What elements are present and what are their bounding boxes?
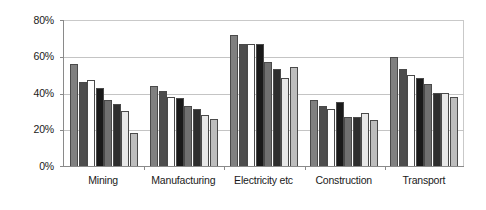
bar (407, 75, 415, 166)
bar (193, 109, 201, 166)
x-axis-category-label: Transport (384, 174, 464, 186)
bar-group (224, 20, 304, 166)
plot-area (63, 20, 464, 167)
bar-group (64, 20, 144, 166)
x-group-separator (305, 166, 306, 170)
bar-chart: 80% 60% 40% 20% 0% Mining Manufacturing … (0, 0, 486, 210)
bar (433, 93, 441, 166)
bar (159, 91, 167, 166)
bar (336, 102, 344, 166)
bar (353, 117, 361, 166)
bar (150, 86, 158, 166)
bar (201, 115, 209, 166)
bar (424, 84, 432, 166)
x-group-separator (224, 166, 225, 170)
bar (104, 100, 112, 166)
bar (264, 62, 272, 166)
bar (230, 35, 238, 166)
x-axis-labels: Mining Manufacturing Electricity etc Con… (63, 174, 464, 186)
bar (256, 44, 264, 166)
y-axis-labels: 80% 60% 40% 20% 0% (0, 0, 58, 210)
y-tick-0 (60, 166, 64, 167)
bar (96, 88, 104, 166)
bar (247, 44, 255, 166)
x-axis-category-label: Electricity etc (223, 174, 303, 186)
bar (239, 44, 247, 166)
bar (184, 106, 192, 166)
bar (121, 111, 129, 166)
bar (344, 117, 352, 166)
bar (441, 93, 449, 166)
bar (79, 82, 87, 166)
bar (327, 109, 335, 166)
bar (361, 113, 369, 166)
bar (113, 104, 121, 166)
bar (450, 97, 458, 166)
y-axis-tick-label: 0% (39, 161, 54, 172)
x-axis-category-label: Mining (63, 174, 143, 186)
bar (319, 106, 327, 166)
bar-group (304, 20, 384, 166)
bar (416, 78, 424, 166)
bar (399, 69, 407, 166)
bar (70, 64, 78, 166)
x-group-separator (144, 166, 145, 170)
bar (87, 80, 95, 166)
bar (281, 78, 289, 166)
y-axis-tick-label: 60% (34, 51, 54, 62)
bar-groups (64, 20, 464, 166)
bar (176, 98, 184, 166)
bar (273, 69, 281, 166)
x-group-separator (385, 166, 386, 170)
bar (167, 97, 175, 166)
y-axis-tick-label: 40% (34, 88, 54, 99)
bar (290, 67, 298, 166)
bar-group (384, 20, 464, 166)
y-axis-tick-label: 80% (34, 15, 54, 26)
x-axis-category-label: Manufacturing (143, 174, 223, 186)
bar (370, 120, 378, 166)
y-axis-tick-label: 20% (34, 124, 54, 135)
x-axis-category-label: Construction (304, 174, 384, 186)
bar (310, 100, 318, 166)
bar (210, 119, 218, 166)
bar (390, 57, 398, 167)
bar-group (144, 20, 224, 166)
bar (130, 133, 138, 166)
